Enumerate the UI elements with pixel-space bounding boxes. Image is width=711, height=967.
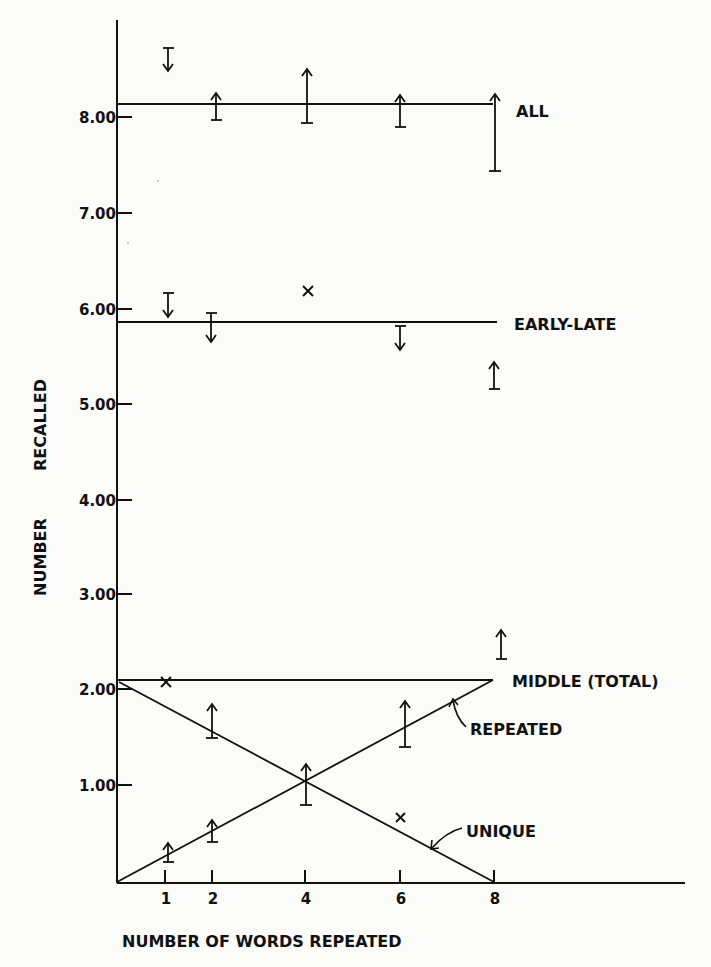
speck [157, 180, 159, 182]
series-labels: ALL EARLY-LATE MIDDLE (TOTAL) REPEATED U… [466, 102, 659, 841]
y-tick-label: 3.00 [79, 586, 116, 604]
arrow-up-icon [496, 630, 507, 659]
error-bars [163, 48, 507, 862]
x-tick-label: 2 [208, 890, 218, 908]
label-unique: UNIQUE [466, 822, 536, 841]
y-axis-title-number: NUMBER [31, 518, 50, 596]
label-middle-total: MIDDLE (TOTAL) [512, 672, 659, 691]
label-early-late: EARLY-LATE [514, 315, 616, 334]
y-tick-label: 4.00 [79, 492, 116, 510]
arrow-up-icon [207, 820, 218, 842]
speck [127, 242, 129, 244]
x-marker-icon [161, 677, 171, 687]
x-tick-labels: 1 2 4 6 8 [161, 890, 500, 908]
x-tick-label: 4 [301, 890, 311, 908]
y-tick-label: 6.00 [79, 301, 116, 319]
arrow-down-icon [206, 313, 217, 342]
x-markers [161, 286, 405, 822]
x-tick-label: 8 [490, 890, 500, 908]
x-axis-title: NUMBER OF WORDS REPEATED [122, 932, 402, 951]
x-tick-label: 6 [396, 890, 406, 908]
label-all: ALL [516, 102, 549, 121]
y-tick-label: 5.00 [79, 396, 116, 414]
arrow-down-icon [163, 48, 174, 71]
label-repeated: REPEATED [470, 720, 562, 739]
callouts [431, 699, 466, 849]
y-tick-label: 8.00 [79, 109, 116, 127]
arrow-up-icon [211, 93, 222, 120]
y-tick-label: 2.00 [79, 681, 116, 699]
x-tick-label: 1 [161, 890, 171, 908]
y-tick-label: 7.00 [79, 205, 116, 223]
callout-repeated-icon [453, 700, 466, 727]
y-tick-labels: 1.00 2.00 3.00 4.00 5.00 6.00 7.00 8.00 [79, 109, 116, 795]
arrow-up-icon [489, 362, 500, 389]
x-marker-icon [303, 286, 313, 296]
y-axis-title-recalled: RECALLED [31, 379, 50, 471]
callout-unique-icon [432, 828, 462, 848]
arrow-up-icon [301, 69, 313, 123]
arrow-down-icon [395, 326, 406, 350]
arrow-down-icon [163, 293, 174, 317]
x-ticks [165, 870, 494, 883]
axes [117, 20, 685, 883]
y-tick-label: 1.00 [79, 777, 116, 795]
chart: 1.00 2.00 3.00 4.00 5.00 6.00 7.00 8.00 … [0, 0, 711, 967]
arrow-up-icon [395, 95, 406, 127]
x-marker-icon [396, 813, 405, 822]
arrow-up-icon [489, 94, 501, 171]
